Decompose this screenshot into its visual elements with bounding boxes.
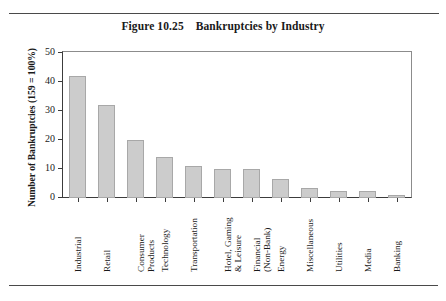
bar (185, 166, 202, 198)
bar (330, 191, 347, 198)
x-tick-mark (281, 198, 282, 202)
x-axis-label: Transportation (190, 218, 200, 272)
y-axis-title: Number of Bankruptcies (159 = 100%) (26, 38, 37, 218)
x-tick-mark (397, 198, 398, 202)
x-tick-mark (339, 198, 340, 202)
x-axis-label: Technology (161, 229, 171, 272)
y-tick-label: 50 (29, 47, 55, 57)
bar (69, 76, 86, 198)
x-axis-label: Media (364, 249, 374, 272)
bars-container (63, 52, 411, 198)
x-axis-label: Industrial (74, 237, 84, 272)
y-tick-label: 20 (29, 134, 55, 144)
bar (214, 169, 231, 198)
x-tick-mark (368, 198, 369, 202)
bottom-divider-rule (9, 285, 438, 286)
x-tick-mark (252, 198, 253, 202)
bar (359, 191, 376, 198)
x-axis-label: Miscellaneous (306, 219, 316, 272)
bar-chart: Number of Bankruptcies (159 = 100%) 0102… (0, 0, 446, 301)
bar (301, 188, 318, 198)
bar (243, 169, 260, 198)
x-tick-mark (165, 198, 166, 202)
y-tick-label: 10 (29, 163, 55, 173)
x-axis-label: Retail (103, 250, 113, 272)
y-tick-label: 40 (29, 76, 55, 86)
x-tick-mark (310, 198, 311, 202)
bar (127, 140, 144, 198)
bar (156, 157, 173, 198)
x-axis-label: Consumer Products (137, 234, 156, 272)
x-tick-mark (223, 198, 224, 202)
bar (272, 179, 289, 198)
x-axis-label: Utilities (335, 242, 345, 272)
bar (98, 105, 115, 198)
x-axis-label: Financial (Non-Bank) (253, 228, 272, 272)
x-tick-mark (107, 198, 108, 202)
x-axis-label: Hotel, Gaming & Leisure (224, 217, 243, 272)
x-tick-mark (136, 198, 137, 202)
figure-page: Figure 10.25 Bankruptcies by Industry Nu… (0, 0, 446, 301)
y-tick-label: 30 (29, 105, 55, 115)
x-tick-mark (78, 198, 79, 202)
x-axis-label: Energy (277, 246, 287, 272)
y-tick-label: 0 (29, 192, 55, 202)
x-axis-label: Banking (393, 241, 403, 272)
x-tick-mark (194, 198, 195, 202)
